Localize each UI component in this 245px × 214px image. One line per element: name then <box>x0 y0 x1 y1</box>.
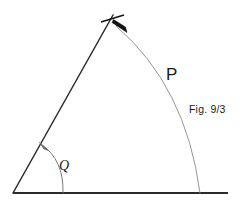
figure-caption: Fig. 9/3 <box>189 104 226 115</box>
figure-canvas: P Q Fig. 9/3 <box>0 0 245 214</box>
arc-p-curve <box>116 26 200 193</box>
apex-arrow-marker <box>112 20 127 33</box>
angle-arrow-marker <box>40 143 49 151</box>
angle-label-q: Q <box>59 159 69 173</box>
arc-label-p: P <box>166 66 177 83</box>
